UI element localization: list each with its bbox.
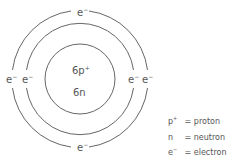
legend: p+ = proton n = neutron e− = electron	[168, 112, 226, 159]
legend-equals: =	[185, 132, 192, 141]
legend-row-proton: p+ = proton	[168, 112, 226, 128]
neutron-count: 6n	[73, 87, 86, 98]
electron-outer-right: e−	[142, 73, 153, 85]
legend-meaning: electron	[194, 148, 227, 157]
legend-symbol: p+	[168, 112, 182, 128]
proton-count: 6p+	[72, 64, 90, 76]
legend-symbol: n	[168, 128, 182, 144]
electron-outer-bottom: e−	[77, 141, 88, 153]
electron-inner-left: e−	[22, 73, 33, 85]
inner-shell	[27, 23, 134, 134]
electron-inner-right: e−	[128, 73, 139, 85]
legend-row-neutron: n = neutron	[168, 128, 226, 144]
legend-equals: =	[185, 148, 192, 157]
legend-row-electron: e− = electron	[168, 143, 226, 159]
legend-symbol: e−	[168, 143, 182, 159]
legend-equals: =	[185, 117, 192, 126]
legend-meaning: proton	[194, 117, 220, 126]
electron-outer-top: e−	[77, 6, 88, 18]
electron-outer-left: e−	[6, 73, 17, 85]
nucleus-circle	[45, 44, 115, 114]
legend-meaning: neutron	[194, 132, 225, 141]
